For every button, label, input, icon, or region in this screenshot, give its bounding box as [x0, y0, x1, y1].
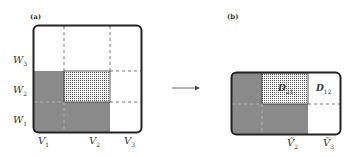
- diagram-canvas: [0, 0, 353, 157]
- col-label-v3-tilde: Ṽ3: [323, 138, 334, 150]
- block-label-d21: D21: [278, 84, 293, 95]
- col-label-v2-tilde: Ṽ2: [287, 138, 298, 150]
- panel-label-a: (a): [30, 13, 41, 20]
- row-label-w2: W2: [13, 85, 27, 97]
- block-label-d12: D12: [316, 84, 331, 95]
- dotted-block: [64, 71, 110, 102]
- col-label-v2: V2: [89, 136, 100, 148]
- col-label-v1: V1: [38, 136, 49, 148]
- panel-label-b: (b): [227, 13, 239, 20]
- panel-a-matrix: [34, 26, 142, 133]
- panel-b-matrix: [232, 73, 341, 135]
- col-label-v3: V3: [124, 136, 135, 148]
- row-label-w1: W1: [13, 115, 27, 127]
- row-label-w3: W3: [13, 55, 27, 67]
